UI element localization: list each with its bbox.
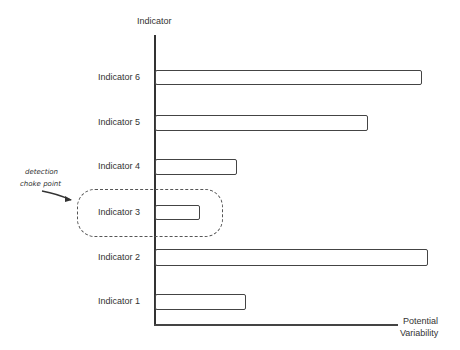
choke-point-highlight [77,189,223,237]
y-axis-title: Indicator [137,16,172,26]
category-label: Indicator 6 [98,72,140,82]
bar-indicator-5 [155,115,368,131]
annotation-line1: detection [25,168,58,176]
x-axis-title-line1: Potential [403,316,438,326]
annotation-line2: choke point [20,180,61,188]
bar-indicator-4 [155,159,237,175]
bar-indicator-6 [155,70,422,85]
x-axis-line [154,324,398,326]
category-label: Indicator 2 [98,252,140,262]
category-label: Indicator 4 [98,161,140,171]
category-label: Indicator 1 [98,296,140,306]
bar-indicator-2 [155,249,428,266]
x-axis-title-line2: Variability [400,328,438,338]
arrow-icon [40,188,76,204]
category-label: Indicator 5 [98,117,140,127]
bar-indicator-1 [155,294,246,310]
